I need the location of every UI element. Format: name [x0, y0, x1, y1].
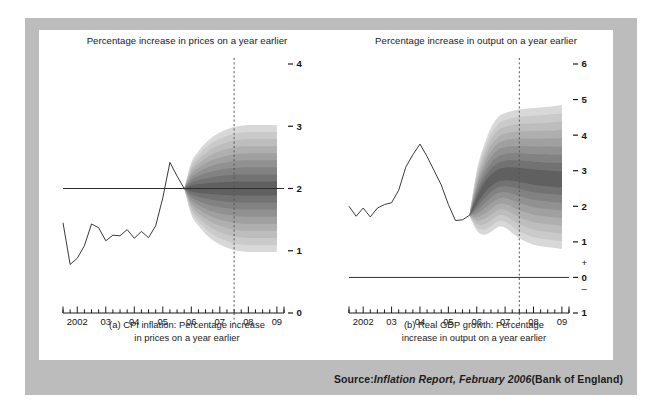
source-prefix: Source: — [334, 373, 374, 385]
source-title: Inflation Report, February 2006 — [374, 373, 532, 385]
source-attribution: Source: Inflation Report, February 2006 … — [25, 362, 637, 395]
chart-caption-gdp: (b) Real GDP growth: Percentage increase… — [335, 319, 613, 344]
axis-plus-sign: + — [582, 257, 588, 268]
y-tick-label: 2 — [582, 201, 587, 212]
y-tick-label: 0 — [297, 307, 302, 318]
y-tick-label: 6 — [582, 58, 587, 69]
caption-line-1: (a) CPI inflation: Percentage increase — [109, 319, 265, 330]
fan-chart-bands — [470, 105, 562, 249]
caption-line-2: in prices on a year earlier — [39, 332, 335, 345]
caption-line-1: (b) Real GDP growth: Percentage — [404, 319, 544, 330]
y-tick-label: 1 — [297, 245, 303, 256]
figure-root: Percentage increase in prices on a year … — [0, 0, 655, 410]
history-line — [349, 144, 470, 220]
chart-panel-real-gdp-growth: Percentage increase in output on a year … — [335, 30, 613, 360]
y-tick-label: 4 — [297, 58, 303, 69]
y-tick-label: 0 — [582, 272, 587, 283]
charts-container: Percentage increase in prices on a year … — [39, 30, 613, 360]
chart-caption-cpi: (a) CPI inflation: Percentage increase i… — [39, 319, 335, 344]
chart-svg-gdp: 20020304050607080910123456+– — [335, 30, 613, 360]
y-tick-label: 3 — [297, 121, 302, 132]
y-tick-label: 3 — [582, 165, 587, 176]
chart-title-gdp: Percentage increase in output on a year … — [335, 35, 613, 46]
y-tick-label: 2 — [297, 183, 302, 194]
history-line — [63, 162, 184, 264]
chart-svg-cpi: 20020304050607080901234 — [39, 30, 335, 360]
y-tick-label: 1 — [582, 236, 588, 247]
y-tick-label: 1 — [582, 307, 588, 318]
y-tick-label: 5 — [582, 94, 588, 105]
chart-title-cpi: Percentage increase in prices on a year … — [39, 35, 335, 46]
caption-line-2: increase in output on a year earlier — [335, 332, 613, 345]
y-tick-label: 4 — [582, 130, 588, 141]
chart-panel-cpi-inflation: Percentage increase in prices on a year … — [39, 30, 335, 360]
axis-minus-sign: – — [582, 283, 588, 294]
source-publisher: (Bank of England) — [531, 373, 623, 385]
